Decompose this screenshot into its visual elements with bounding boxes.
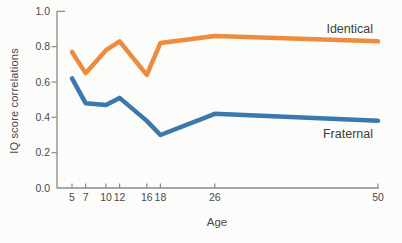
y-tick-label: 0.8 (35, 40, 50, 52)
x-tick-label: 50 (372, 191, 384, 203)
x-tick-label: 16 (141, 191, 153, 203)
x-tick-label: 18 (155, 191, 167, 203)
y-tick-label: 1.0 (35, 5, 50, 17)
line-identical (72, 36, 378, 75)
y-tick-label: 0.6 (35, 76, 50, 88)
x-tick-label: 26 (209, 191, 221, 203)
y-tick-label: 0.0 (35, 182, 50, 194)
y-tick-label: 0.4 (35, 111, 50, 123)
chart-canvas: 0.00.20.40.60.81.057101216182650 (0, 0, 402, 243)
y-tick-label: 0.2 (35, 146, 50, 158)
x-tick-label: 7 (83, 191, 89, 203)
line-fraternal (72, 78, 378, 135)
x-tick-label: 12 (114, 191, 126, 203)
x-tick-label: 10 (100, 191, 112, 203)
iq-twin-correlation-chart: 0.00.20.40.60.81.057101216182650 IQ scor… (0, 0, 402, 243)
x-tick-label: 5 (69, 191, 75, 203)
